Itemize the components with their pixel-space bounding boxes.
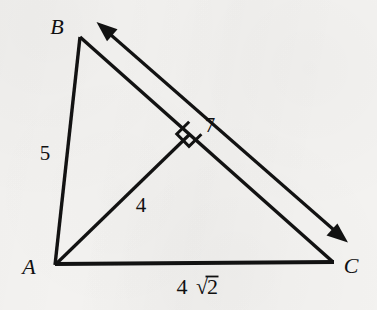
- measure-label-ac-coefficient: 4: [177, 274, 188, 299]
- measure-label-ac-group: 4 √ 2: [177, 274, 219, 299]
- measure-label-altitude: 4: [136, 193, 147, 217]
- measure-label-ab: 5: [40, 141, 51, 165]
- measure-label-ac-radicand: 2: [207, 274, 218, 299]
- altitude-line: [56, 134, 190, 264]
- vertex-label-b: B: [50, 14, 63, 39]
- side-bc-line: [80, 37, 333, 262]
- side-ab-line: [55, 37, 80, 265]
- side-ac-line: [55, 262, 334, 264]
- vertex-label-c: C: [344, 253, 359, 278]
- geometry-diagram: A B C 5 4 7 4 √ 2: [0, 0, 377, 310]
- vertex-label-a: A: [20, 254, 36, 279]
- measure-label-bc: 7: [205, 113, 216, 137]
- geometry-figure-canvas: A B C 5 4 7 4 √ 2: [0, 0, 377, 310]
